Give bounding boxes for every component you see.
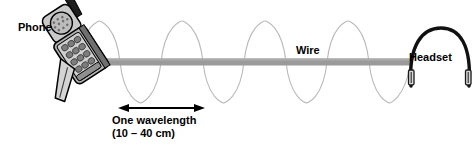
diagram-canvas [0, 0, 473, 149]
phone-label: Phone [18, 21, 52, 34]
wire-label: Wire [296, 44, 320, 57]
headset-earpiece-right [466, 70, 472, 85]
wavelength-label-line1: One wavelength [112, 114, 196, 126]
double-headed-arrow-icon [118, 104, 205, 112]
headset-earpiece-left [409, 70, 415, 85]
headset-label: Headset [409, 51, 452, 64]
flip-phone-icon [13, 0, 119, 105]
wave-diagram-figure: Phone Wire Headset One wavelength (10 – … [0, 0, 473, 149]
wire-bar-highlight [72, 59, 412, 61]
wavelength-label-line2: (10 – 40 cm) [112, 127, 196, 140]
wavelength-label: One wavelength (10 – 40 cm) [112, 114, 196, 139]
